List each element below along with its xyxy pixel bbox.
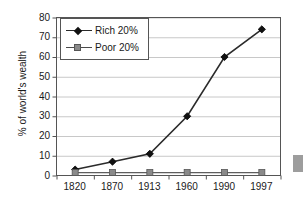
scan-artifact: [293, 155, 303, 172]
chart-container: % of world's wealth 01020304050607080 18…: [0, 0, 305, 201]
data-point-marker: [72, 170, 78, 176]
data-point-marker: [222, 170, 228, 176]
legend-label-rich: Rich 20%: [92, 25, 138, 37]
data-point-marker: [259, 170, 265, 176]
x-axis-tick-labels: 182018701913196019901997: [56, 181, 281, 197]
x-axis-ticks: [57, 176, 281, 180]
data-point-marker: [109, 158, 116, 165]
plot-area: [0, 0, 305, 201]
legend-item-rich: Rich 20%: [66, 22, 148, 39]
legend-item-poor: Poor 20%: [66, 39, 148, 56]
data-point-marker: [147, 170, 153, 176]
series-poor: [72, 170, 265, 176]
diamond-marker-icon: [66, 25, 92, 37]
data-point-marker: [184, 170, 190, 176]
data-point-marker: [110, 170, 116, 176]
x-tick-label: 1997: [239, 181, 283, 193]
legend-label-poor: Poor 20%: [92, 42, 139, 54]
chart-legend: Rich 20% Poor 20%: [60, 18, 149, 60]
square-marker-icon: [66, 42, 92, 54]
